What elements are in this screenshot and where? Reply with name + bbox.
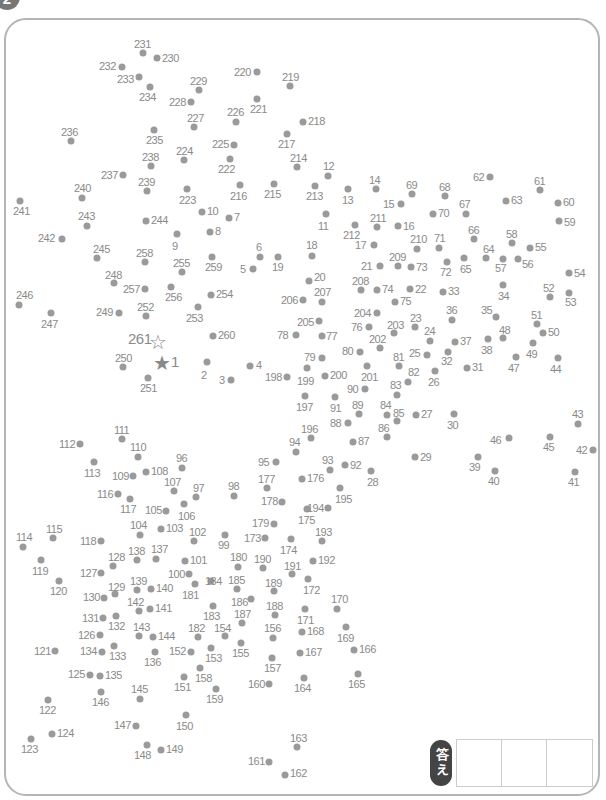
dot-98 (231, 493, 238, 500)
dot-15 (398, 201, 405, 208)
dot-51 (534, 321, 541, 328)
dot-label: 124 (57, 728, 74, 739)
dot-label: 241 (13, 206, 30, 217)
dot-label: 217 (278, 139, 295, 150)
dot-label: 170 (331, 594, 348, 605)
dot-label: 204 (354, 308, 371, 319)
dot-label: 187 (234, 609, 251, 620)
dot-label: 43 (572, 409, 583, 420)
dot-52 (547, 294, 554, 301)
dot-label: 105 (145, 505, 162, 516)
dot-label: 191 (284, 561, 301, 572)
dot-label: 87 (358, 436, 369, 447)
dot-label: 16 (403, 221, 414, 232)
dot-20 (306, 278, 313, 285)
dot-219 (287, 83, 294, 90)
dot-label: 18 (306, 240, 317, 251)
dot-72 (444, 259, 451, 266)
dot-label: 222 (218, 164, 235, 175)
dot-46 (506, 435, 513, 442)
dot-label: 104 (130, 520, 147, 531)
dot-label: 165 (348, 679, 365, 690)
dot-22 (407, 286, 414, 293)
dot-label: 233 (117, 74, 134, 85)
dot-label: 221 (250, 104, 267, 115)
dot-117 (127, 496, 134, 503)
dot-54 (566, 270, 573, 277)
dot-8 (207, 229, 214, 236)
dot-label: 178 (261, 496, 278, 507)
dot-label: 48 (499, 325, 510, 336)
dot-150 (183, 712, 190, 719)
dot-label: 253 (186, 313, 203, 324)
dot-label: 156 (264, 623, 281, 634)
answer-cell-1[interactable] (457, 740, 502, 786)
dot-label: 167 (305, 647, 322, 658)
answer-cell-2[interactable] (502, 740, 547, 786)
dot-label: 9 (172, 241, 178, 252)
dot-23 (412, 324, 419, 331)
dot-label: 179 (252, 518, 269, 529)
dot-label: 45 (543, 442, 554, 453)
dot-144 (150, 634, 157, 641)
dot-label: 8 (215, 226, 221, 237)
dot-label: 256 (165, 292, 182, 303)
dot-label: 102 (189, 527, 206, 538)
dot-label: 207 (314, 287, 331, 298)
dot-220 (254, 69, 261, 76)
dot-label: 171 (297, 615, 314, 626)
dot-59 (556, 218, 563, 225)
dot-label: 65 (460, 264, 471, 275)
dot-label: 144 (158, 631, 175, 642)
dot-label: 95 (258, 457, 269, 468)
dot-6 (257, 254, 264, 261)
dot-153 (208, 645, 215, 652)
dot-245 (94, 255, 101, 262)
dot-label: 84 (380, 400, 391, 411)
dot-label: 78 (277, 330, 288, 341)
dot-75 (392, 299, 399, 306)
dot-167 (297, 650, 304, 657)
dot-label: 160 (248, 679, 265, 690)
dot-257 (142, 286, 149, 293)
dot-label: 76 (351, 322, 362, 333)
dot-244 (143, 218, 150, 225)
dot-246 (16, 302, 23, 309)
dot-label: 38 (481, 345, 492, 356)
dot-213 (312, 183, 319, 190)
dot-176 (299, 476, 306, 483)
dot-209 (395, 263, 402, 270)
dot-label: 141 (155, 603, 172, 614)
dot-label: 39 (469, 462, 480, 473)
dot-47 (513, 354, 520, 361)
dot-label: 198 (265, 372, 282, 383)
dot-70 (430, 211, 437, 218)
dot-label: 196 (301, 424, 318, 435)
dot-190 (260, 565, 267, 572)
dot-label: 175 (298, 515, 315, 526)
dot-253 (195, 304, 202, 311)
dot-242 (59, 236, 66, 243)
dot-164 (301, 675, 308, 682)
dot-155 (238, 640, 245, 647)
dot-63 (503, 198, 510, 205)
dot-158 (197, 665, 204, 672)
dot-label: 247 (41, 319, 58, 330)
end-label: 261 (128, 331, 152, 346)
dot-149 (158, 747, 165, 754)
dot-label: 159 (206, 694, 223, 705)
dot-199 (304, 365, 311, 372)
dot-label: 86 (378, 423, 389, 434)
dot-label: 239 (138, 177, 155, 188)
dot-160 (266, 681, 273, 688)
dot-202 (377, 345, 384, 352)
dot-label: 129 (108, 582, 125, 593)
dot-label: 11 (318, 221, 328, 232)
answer-cell-3[interactable] (547, 740, 592, 786)
dot-84 (384, 412, 391, 419)
dot-label: 203 (387, 320, 404, 331)
dot-34 (500, 282, 507, 289)
dot-label: 72 (440, 267, 451, 278)
dot-11 (323, 211, 330, 218)
dot-label: 27 (421, 409, 432, 420)
